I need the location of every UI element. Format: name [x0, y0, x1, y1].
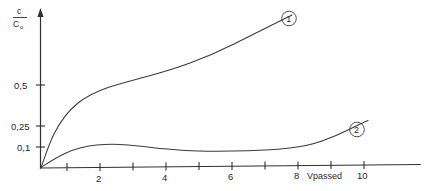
y-axis-title-denominator: C	[13, 19, 19, 29]
curve-1-tag-label: 1	[286, 14, 291, 24]
chart-figure: 0,5 0,25 0,1 2 4 6 8 10 Vpassed	[0, 0, 426, 191]
chart-svg: 0,5 0,25 0,1 2 4 6 8 10 Vpassed	[0, 0, 426, 191]
y-axis	[37, 8, 43, 168]
x-tick-label-0: 2	[96, 173, 101, 184]
curve-2-tag-label: 2	[354, 125, 359, 135]
y-tick-label-2: 0,1	[17, 142, 30, 153]
x-tick-label-4: 10	[357, 170, 368, 181]
y-axis-title-numerator: c	[17, 6, 22, 16]
y-tick-label-0: 0,5	[14, 80, 27, 91]
curve-2	[41, 121, 368, 168]
y-axis-arrow-icon	[37, 8, 43, 17]
x-tick-label-2: 6	[228, 171, 233, 182]
y-tick-label-1: 0,25	[11, 121, 30, 132]
curve-1	[41, 15, 292, 168]
y-axis-title: c C o	[13, 6, 27, 30]
y-axis-title-denominator-subscript: o	[20, 24, 24, 30]
curve-2-tag: 2	[350, 122, 365, 137]
x-axis	[41, 165, 421, 169]
x-axis-line	[41, 165, 421, 169]
x-axis-title: Vpassed	[307, 171, 342, 181]
x-tick-label-1: 4	[162, 172, 167, 183]
x-tick-label-3: 8	[294, 170, 299, 181]
y-axis-tick-labels: 0,5 0,25 0,1	[11, 80, 30, 153]
